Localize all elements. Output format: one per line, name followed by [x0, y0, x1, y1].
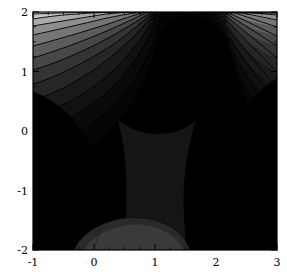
x-tick-label-0: 0 [91, 256, 98, 269]
contour-field [33, 12, 277, 250]
x-tick-label-neg1: -1 [28, 256, 39, 269]
y-tick-label-0: 0 [21, 125, 28, 138]
contour-plot-svg: 2 1 0 -1 -2 -1 0 1 2 3 [0, 0, 287, 278]
y-tick-label-neg1: -1 [17, 185, 28, 198]
y-tick-label-2: 2 [21, 6, 28, 19]
x-tick-label-1: 1 [152, 256, 159, 269]
y-tick-label-1: 1 [21, 66, 28, 79]
contour-plot-figure: 2 1 0 -1 -2 -1 0 1 2 3 [0, 0, 287, 278]
x-tick-label-2: 2 [213, 256, 220, 269]
y-tick-label-neg2: -2 [17, 244, 28, 257]
x-tick-label-3: 3 [274, 256, 281, 269]
